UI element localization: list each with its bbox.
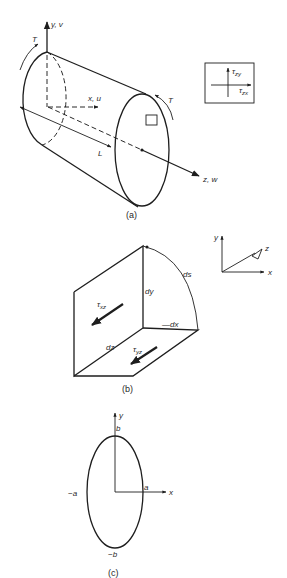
y-axis-label: y, v (50, 20, 64, 29)
neg-b-label: −b (108, 550, 118, 559)
stress-element-square (146, 115, 157, 125)
tau-zy-label: τzy (232, 67, 242, 77)
torque-right-label: T (168, 96, 174, 105)
z-axis-label: z, w (202, 175, 218, 184)
tau-xz-label: τxz (97, 300, 106, 310)
z-axis-arrow (142, 150, 199, 176)
panel-c-ellipse: y x b −b a −a (c) (68, 411, 174, 578)
torque-left-arrow (20, 44, 38, 70)
a-label: a (144, 483, 149, 492)
caption-a: (a) (126, 210, 137, 220)
x-axis-label: x, u (87, 94, 101, 103)
torsion-figure: y, v x, u z, w L T T τzy τzx (0, 0, 287, 578)
dx-label: —dx (161, 320, 179, 329)
dz-label: dz (106, 343, 114, 352)
length-dimension (20, 107, 111, 147)
panel-b-element: dy ds —dx dz τxz τyz y x z (b) (74, 233, 273, 394)
triad-z-label: z (264, 244, 269, 253)
dy-label: dy (145, 287, 154, 296)
torque-left-label: T (32, 35, 38, 44)
front-face (74, 246, 143, 376)
caption-b: (b) (122, 384, 133, 394)
tau-yz-label: τyz (133, 345, 142, 355)
ds-label: ds (183, 270, 191, 279)
z-axis-hidden (48, 107, 142, 150)
left-end-solid (23, 52, 47, 145)
c-x-label: x (168, 488, 174, 497)
triad-y-label: y (213, 233, 219, 242)
corner-dot (146, 246, 149, 249)
stress-inset-box (205, 63, 254, 103)
bottom-generator (42, 145, 138, 207)
triad-z-line (222, 253, 255, 272)
b-label: b (116, 424, 121, 433)
neg-a-label: −a (68, 489, 78, 498)
c-y-label: y (118, 411, 124, 420)
length-label: L (98, 149, 102, 158)
panel-a-cylinder: y, v x, u z, w L T T τzy τzx (20, 20, 254, 220)
triad-x-label: x (267, 268, 273, 277)
tau-zx-label: τzx (239, 86, 249, 96)
caption-c: (c) (108, 568, 119, 578)
left-end-hidden (42, 52, 66, 145)
